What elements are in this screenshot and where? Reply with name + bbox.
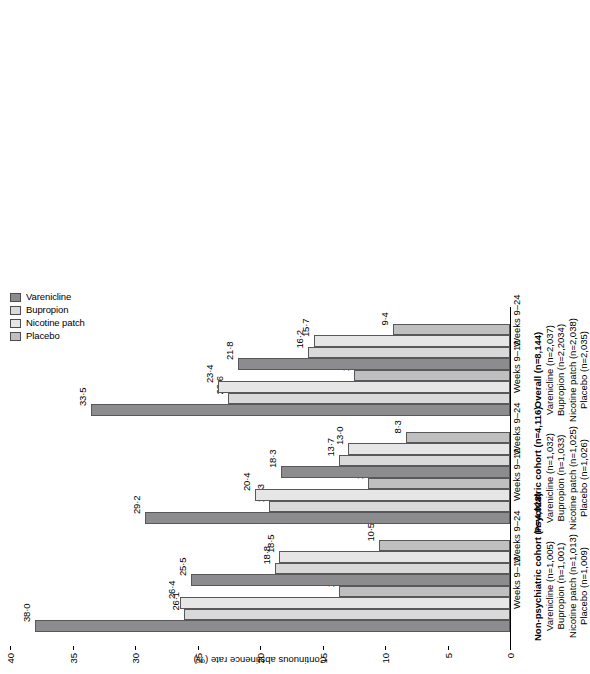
group-tick-label: Weeks 9–24 xyxy=(511,294,522,347)
bar xyxy=(354,370,510,382)
bar xyxy=(339,586,510,598)
cohort-arm: Bupropion (n=1,033) xyxy=(555,423,567,533)
bar xyxy=(35,621,510,633)
bar-value-label: 13·0 xyxy=(334,427,345,445)
bar xyxy=(314,336,510,348)
bar xyxy=(393,324,511,336)
bar-series-container: 38·026·126·413·7Weeks 9–1225·518·818·510… xyxy=(10,308,510,646)
cohort-arm: Nicotine patch (n=2,038) xyxy=(567,315,579,425)
bar-value-label: 8·3 xyxy=(392,420,403,433)
group-tick-label: Weeks 9–24 xyxy=(511,402,522,455)
bar xyxy=(368,478,511,490)
bar xyxy=(339,455,510,467)
bar xyxy=(281,467,510,479)
axis-tick xyxy=(385,646,386,650)
axis-tick-label: 0 xyxy=(505,653,516,658)
cohort-caption: Psychiatric cohort (n=4,116)Varenicline … xyxy=(532,423,590,533)
axis-tick-label: 35 xyxy=(67,653,78,664)
bar-value-label: 18·5 xyxy=(265,535,276,553)
bar-value-label: 38·0 xyxy=(21,604,32,622)
cohort-title: Overall (n=8,144) xyxy=(532,315,544,425)
cohort-title: Psychiatric cohort (n=4,116) xyxy=(532,423,544,533)
cohort-arm: Bupropion (n=2,2034) xyxy=(555,315,567,425)
bar xyxy=(228,393,511,405)
cohort-arm: Varenicline (n=2,037) xyxy=(544,315,556,425)
value-axis-title: Continuous abstinence rate (%) xyxy=(110,655,410,666)
bar xyxy=(218,382,511,394)
bar xyxy=(275,563,510,575)
axis-tick xyxy=(73,646,74,650)
legend-item-label: Varenicline xyxy=(26,292,71,302)
bar xyxy=(91,405,510,417)
cohort-caption: Non-psychiatric cohort (n=4,028)Varenicl… xyxy=(532,531,590,641)
group-tick-label: Weeks 9–12 xyxy=(511,556,522,609)
bar xyxy=(180,598,510,610)
group-tick-label: Weeks 9–12 xyxy=(511,340,522,393)
axis-tick xyxy=(323,646,324,650)
bar xyxy=(145,513,510,525)
axis-tick xyxy=(135,646,136,650)
bar xyxy=(308,347,511,359)
bar-value-label: 29·2 xyxy=(131,496,142,514)
bar xyxy=(379,540,510,552)
group-tick-label: Weeks 9–24 xyxy=(511,510,522,563)
axis-tick-label: 5 xyxy=(442,653,453,658)
cohort-arm: Varenicline (n=1,032) xyxy=(544,423,556,533)
axis-tick-label: 40 xyxy=(5,653,16,664)
bar-value-label: 33·5 xyxy=(77,388,88,406)
axis-tick xyxy=(510,646,511,650)
legend-swatch-icon xyxy=(10,293,21,302)
cohort-arm: Placebo (n=1,026) xyxy=(578,423,590,533)
bar xyxy=(191,575,510,587)
axis-tick xyxy=(10,646,11,650)
cohort-arm: Varenicline (n=1,005) xyxy=(544,531,556,641)
bar-value-label: 9·4 xyxy=(379,312,390,325)
bar xyxy=(348,444,511,456)
bar-value-label: 25·5 xyxy=(177,558,188,576)
bar-value-label: 20·4 xyxy=(241,473,252,491)
axis-tick xyxy=(448,646,449,650)
bar xyxy=(279,552,510,564)
bar-value-label: 21·8 xyxy=(224,342,235,360)
cohort-arm: Nicotine patch (n=1,025) xyxy=(567,423,579,533)
cohort-arm: Bupropion (n=1,001) xyxy=(555,531,567,641)
cohort-caption: Overall (n=8,144)Varenicline (n=2,037)Bu… xyxy=(532,315,590,425)
bar-value-label: 15·7 xyxy=(300,319,311,337)
bar xyxy=(269,501,510,513)
bar xyxy=(238,359,511,371)
bar-value-label: 26·4 xyxy=(166,581,177,599)
legend-item: Varenicline xyxy=(10,292,85,302)
cohort-title: Non-psychiatric cohort (n=4,028) xyxy=(532,531,544,641)
cohort-arm: Placebo (n=2,035) xyxy=(578,315,590,425)
axis-tick xyxy=(198,646,199,650)
bar-value-label: 23·4 xyxy=(204,365,215,383)
bar xyxy=(255,490,510,502)
bar xyxy=(406,432,510,444)
bar-value-label: 10·5 xyxy=(365,523,376,541)
bar-value-label: 18·3 xyxy=(267,450,278,468)
axis-tick xyxy=(260,646,261,650)
group-tick-label: Weeks 9–12 xyxy=(511,448,522,501)
cohort-arm: Placebo (n=1,009) xyxy=(578,531,590,641)
bar xyxy=(184,609,510,621)
cohort-arm: Nicotine patch (n=1,013) xyxy=(567,531,579,641)
